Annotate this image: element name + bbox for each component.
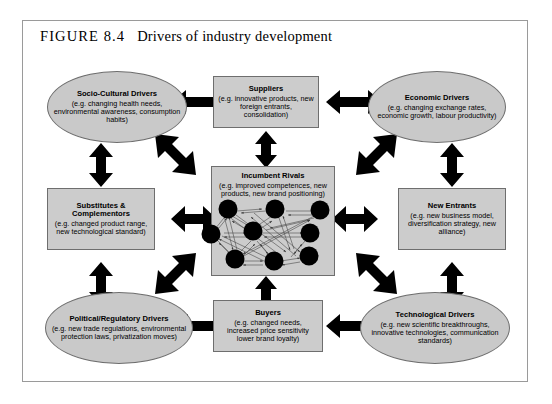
node-socio-cultural-drivers-heading: Socio-Cultural Drivers bbox=[52, 90, 182, 99]
node-incumbent-rivals-body: (e.g. improved competences, new products… bbox=[216, 182, 330, 198]
node-socio-cultural-drivers-text: Socio-Cultural Drivers (e.g. changing he… bbox=[48, 90, 186, 124]
node-buyers-body: (e.g. changed needs, increased price sen… bbox=[218, 319, 318, 343]
node-political-regulatory-drivers[interactable]: Political/Regulatory Drivers (e.g. new t… bbox=[45, 292, 193, 364]
node-buyers-heading: Buyers bbox=[218, 309, 318, 318]
node-technological-drivers[interactable]: Technological Drivers (e.g. new scientif… bbox=[360, 292, 510, 364]
node-substitutes-complementors[interactable]: Substitutes & Complementors (e.g. change… bbox=[47, 188, 155, 250]
figure-title: Drivers of industry development bbox=[137, 28, 332, 44]
node-buyers-text: Buyers (e.g. changed needs, increased pr… bbox=[214, 309, 322, 343]
node-political-regulatory-drivers-heading: Political/Regulatory Drivers bbox=[50, 315, 188, 324]
node-political-regulatory-drivers-body: (e.g. new trade regulations, environment… bbox=[50, 325, 188, 341]
figure-caption: FIGURE 8.4Drivers of industry developmen… bbox=[40, 28, 332, 45]
node-technological-drivers-text: Technological Drivers (e.g. new scientif… bbox=[361, 311, 509, 345]
node-incumbent-rivals-heading: Incumbent Rivals bbox=[216, 172, 330, 181]
node-technological-drivers-heading: Technological Drivers bbox=[365, 311, 505, 320]
figure-number: FIGURE 8.4 bbox=[40, 28, 125, 44]
node-suppliers[interactable]: Suppliers (e.g. innovative products, new… bbox=[213, 76, 319, 128]
node-economic-drivers-text: Economic Drivers (e.g. changing exchange… bbox=[369, 94, 505, 120]
node-new-entrants-body: (e.g. new business model, diversificatio… bbox=[403, 212, 501, 236]
node-socio-cultural-drivers-body: (e.g. changing health needs, environment… bbox=[52, 100, 182, 124]
node-technological-drivers-body: (e.g. new scientific breakthroughs, inno… bbox=[365, 321, 505, 345]
node-economic-drivers-body: (e.g. changing exchange rates, economic … bbox=[373, 104, 501, 120]
node-socio-cultural-drivers[interactable]: Socio-Cultural Drivers (e.g. changing he… bbox=[47, 71, 187, 143]
node-incumbent-rivals[interactable]: Incumbent Rivals (e.g. improved competen… bbox=[211, 166, 335, 276]
node-new-entrants-text: New Entrants (e.g. new business model, d… bbox=[399, 202, 505, 236]
node-incumbent-rivals-text: Incumbent Rivals (e.g. improved competen… bbox=[212, 172, 334, 198]
node-new-entrants-heading: New Entrants bbox=[403, 202, 501, 211]
node-substitutes-complementors-text: Substitutes & Complementors (e.g. change… bbox=[48, 202, 154, 236]
node-substitutes-complementors-heading: Substitutes & Complementors bbox=[52, 202, 150, 219]
node-suppliers-text: Suppliers (e.g. innovative products, new… bbox=[214, 85, 318, 119]
node-new-entrants[interactable]: New Entrants (e.g. new business model, d… bbox=[398, 188, 506, 250]
node-political-regulatory-drivers-text: Political/Regulatory Drivers (e.g. new t… bbox=[46, 315, 192, 341]
node-suppliers-heading: Suppliers bbox=[218, 85, 314, 94]
node-buyers[interactable]: Buyers (e.g. changed needs, increased pr… bbox=[213, 300, 323, 352]
node-substitutes-complementors-body: (e.g. changed product range, new technol… bbox=[52, 220, 150, 236]
node-economic-drivers-heading: Economic Drivers bbox=[373, 94, 501, 103]
node-economic-drivers[interactable]: Economic Drivers (e.g. changing exchange… bbox=[368, 71, 506, 143]
node-suppliers-body: (e.g. innovative products, new foreign e… bbox=[218, 95, 314, 119]
